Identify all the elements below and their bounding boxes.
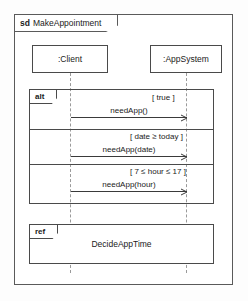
fragment-operator-label-alt: alt	[35, 92, 44, 101]
guard-operand-2: [ date ≥ today ]	[130, 132, 183, 141]
ref-interaction-name: DecideAppTime	[91, 239, 151, 249]
message-needapp-hour[interactable]: needApp(hour)	[71, 178, 187, 192]
arrowhead-open-icon	[180, 188, 188, 196]
message-label-needapp-date: needApp(date)	[71, 145, 187, 154]
operand-divider-1	[30, 129, 213, 130]
message-needapp[interactable]: needApp()	[71, 104, 187, 118]
operand-divider-2	[30, 164, 213, 165]
lifeline-label-client: :Client	[58, 54, 82, 64]
sd-frame-name: MakeAppointment	[33, 18, 102, 28]
message-label-needapp-hour: needApp(hour)	[71, 180, 187, 189]
sd-keyword: sd	[20, 18, 30, 28]
sequence-diagram-canvas: sd MakeAppointment :Client :AppSystem al…	[0, 0, 248, 301]
lifeline-head-client[interactable]: :Client	[32, 45, 108, 73]
guard-operand-1: [ true ]	[152, 93, 175, 102]
fragment-operator-tab-ref: ref	[30, 225, 58, 239]
arrowhead-open-icon	[180, 114, 188, 122]
message-label-needapp: needApp()	[71, 106, 187, 115]
guard-operand-3: [ 7 ≤ hour ≤ 17 ]	[130, 167, 186, 176]
sd-frame-label-tab: sd MakeAppointment	[15, 15, 118, 32]
fragment-operator-label-ref: ref	[35, 227, 45, 236]
fragment-operator-tab-alt: alt	[30, 90, 57, 104]
lifeline-label-appsystem: :AppSystem	[163, 54, 209, 64]
arrowhead-open-icon	[180, 153, 188, 161]
interaction-use-ref[interactable]: DecideAppTime ref	[29, 224, 214, 264]
message-line-needapp-date	[71, 156, 187, 157]
message-needapp-date[interactable]: needApp(date)	[71, 143, 187, 157]
combined-fragment-alt[interactable]: alt [ true ] [ date ≥ today ] [ 7 ≤ hour…	[29, 89, 214, 204]
message-line-needapp-hour	[71, 191, 187, 192]
message-line-needapp	[71, 117, 187, 118]
lifeline-head-appsystem[interactable]: :AppSystem	[150, 45, 222, 73]
